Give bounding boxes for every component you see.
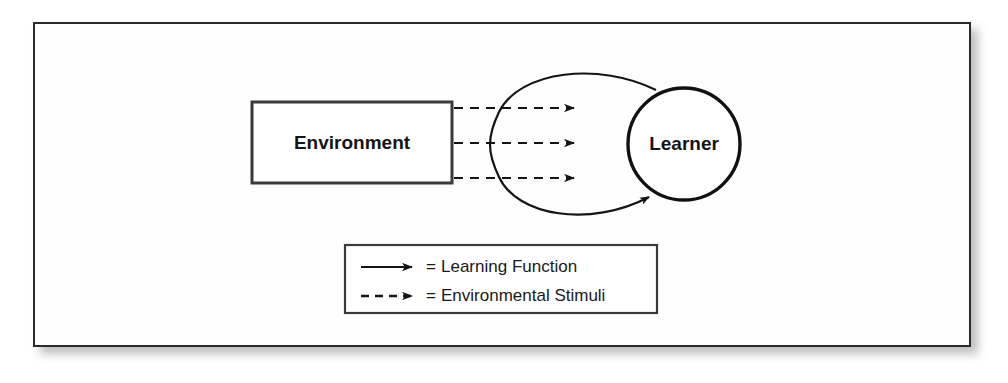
legend-label-learning-function: Learning Function <box>441 257 577 276</box>
legend-equals-1: = <box>426 257 436 276</box>
environment-label: Environment <box>294 132 411 153</box>
environment-node: Environment <box>252 102 452 183</box>
legend-equals-2: = <box>426 286 436 305</box>
legend-label-environmental-stimuli: Environmental Stimuli <box>441 286 605 305</box>
diagram-canvas: Environment Learner = Learning Function … <box>0 0 1008 383</box>
learner-label: Learner <box>649 133 719 154</box>
learner-node: Learner <box>628 88 740 200</box>
figure-root: Environment Learner = Learning Function … <box>0 0 1008 383</box>
environmental-stimuli-arrows <box>454 108 574 178</box>
legend: = Learning Function = Environmental Stim… <box>345 245 657 313</box>
